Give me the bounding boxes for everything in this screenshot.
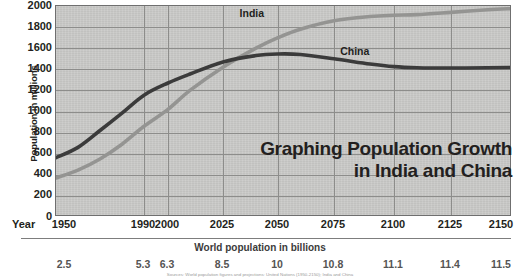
y-axis-tick-label: 1000 [16,105,52,116]
y-axis-tick-label: 600 [16,147,52,158]
y-axis-tick-label: 1200 [16,84,52,95]
chart-title: Graphing Population Growth in India and … [260,138,512,182]
population-growth-chart: Population in millions 02004006008001000… [0,0,520,278]
secondary-axis-tick-label: 10 [271,258,283,270]
secondary-axis-title: World population in billions [0,242,520,253]
y-axis-tick-label: 1800 [16,21,52,32]
secondary-axis-tick-label: 11.5 [491,258,511,270]
x-axis: Year 19501990200020252050207521002125215… [0,218,520,236]
x-axis-tick-label: 2000 [155,218,179,231]
series-label-china: China [340,45,369,57]
y-axis-tick-label: 1600 [16,42,52,53]
secondary-axis-tick-label: 11.4 [440,258,460,270]
secondary-axis-tick-label: 8.5 [215,258,230,270]
x-axis-tick-label: 1950 [52,218,76,231]
x-axis-tick-label: 2050 [265,218,289,231]
axis-divider [21,238,511,239]
x-axis-title: Year [12,218,35,231]
x-axis-tick-label: 1990 [131,218,155,231]
x-axis-tick-label: 2025 [210,218,234,231]
chart-title-line2: in India and China [260,160,512,182]
secondary-axis-tick-labels: 2.55.36.38.51010.811.111.411.5 [0,258,520,272]
x-axis-tick-label: 2075 [321,218,345,231]
y-axis-tick-label: 200 [16,189,52,200]
series-lines [56,6,511,216]
secondary-axis-tick-label: 6.3 [160,258,175,270]
source-footnote: Sources: World population figures and pr… [0,272,520,277]
secondary-axis-tick-label: 10.8 [323,258,343,270]
x-axis-tick-label: 2125 [438,218,462,231]
y-axis-tick-labels: 0200400600800100012001400160018002000 [16,0,52,221]
chart-title-line1: Graphing Population Growth [260,138,512,160]
y-axis-tick-label: 1400 [16,63,52,74]
series-label-india: India [240,7,265,19]
x-axis-tick-label: 2150 [489,218,513,231]
secondary-axis-tick-label: 5.3 [136,258,151,270]
y-axis-tick-label: 400 [16,168,52,179]
y-axis-tick-label: 800 [16,126,52,137]
y-axis-tick-label: 2000 [16,0,52,11]
secondary-axis-tick-label: 2.5 [57,258,72,270]
secondary-axis-tick-label: 11.1 [383,258,403,270]
plot-area [55,5,511,216]
x-axis-tick-label: 2100 [381,218,405,231]
